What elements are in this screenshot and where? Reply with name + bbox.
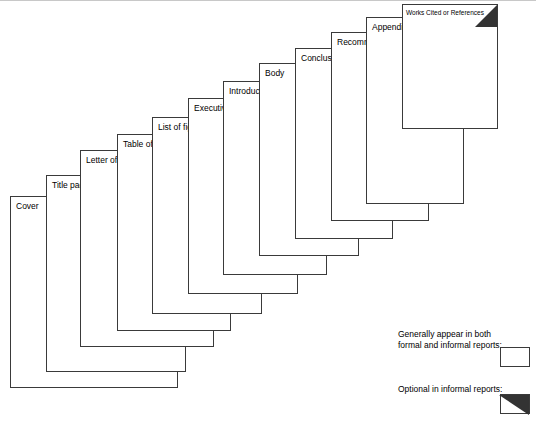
optional-corner-marker-icon xyxy=(499,395,529,415)
report-page-label: Cover xyxy=(16,201,39,211)
legend-swatch-1 xyxy=(500,347,530,367)
report-components-diagram: CoverTitle pageLetter of transmittalTabl… xyxy=(0,0,536,423)
report-page-label: Works Cited or References xyxy=(406,8,484,18)
report-page-12: Works Cited or References xyxy=(402,4,498,129)
legend-label-2: Optional in informal reports: xyxy=(398,384,502,395)
legend-label-1: Generally appear in both formal and info… xyxy=(398,329,502,351)
report-page-label: Body xyxy=(265,68,284,78)
top-divider xyxy=(0,0,536,1)
legend-swatch-2 xyxy=(500,394,530,414)
